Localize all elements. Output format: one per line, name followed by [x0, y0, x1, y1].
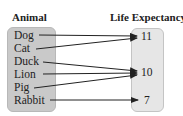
arrow-pig-10: [34, 75, 137, 88]
arrow-dog-11: [39, 35, 137, 36]
arrow-lion-10: [43, 73, 137, 74]
arrow-duck-10: [43, 62, 137, 71]
arrows-layer: [0, 0, 183, 116]
arrow-cat-11: [36, 38, 137, 49]
